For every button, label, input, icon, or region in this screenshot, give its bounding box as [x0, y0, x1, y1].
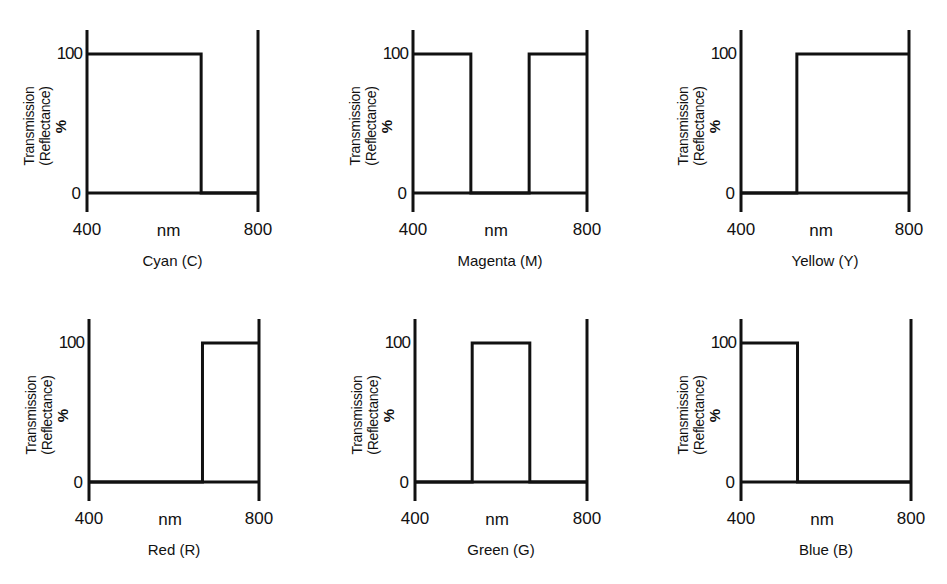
y-axis-label-line2: (Reflectance) — [365, 363, 381, 467]
x-tick-800: 800 — [573, 220, 601, 240]
x-axis-unit: nm — [484, 221, 508, 241]
y-tick-0: 0 — [726, 184, 734, 204]
x-axis-unit: nm — [157, 221, 181, 241]
x-tick-400: 400 — [727, 220, 755, 240]
y-axis-label-line2: (Reflectance) — [37, 74, 53, 178]
x-axis-unit: nm — [809, 221, 833, 241]
chart-panel-cyan: 1000400nm800Cyan (C)Transmission(Reflect… — [0, 0, 300, 260]
chart-panel-blue: 1000400nm800Blue (B)Transmission(Reflect… — [654, 289, 947, 549]
y-axis-label-line1: Transmission — [23, 363, 39, 467]
transmission-curve — [741, 343, 911, 482]
x-tick-800: 800 — [897, 509, 925, 529]
y-axis-label: Transmission(Reflectance) — [349, 363, 383, 467]
y-axis-unit: % — [380, 409, 397, 422]
transmission-curve — [87, 54, 258, 193]
y-tick-0: 0 — [74, 473, 82, 493]
x-tick-800: 800 — [244, 220, 272, 240]
y-axis-unit: % — [706, 409, 723, 422]
x-axis-unit: nm — [810, 510, 834, 530]
y-tick-0: 0 — [726, 473, 734, 493]
x-tick-800: 800 — [895, 220, 923, 240]
transmission-curve — [741, 54, 909, 193]
panel-caption: Magenta (M) — [457, 252, 542, 269]
y-tick-0: 0 — [400, 473, 408, 493]
y-axis-label: Transmission(Reflectance) — [347, 74, 381, 178]
chart-panel-magenta: 1000400nm800Magenta (M)Transmission(Refl… — [326, 0, 626, 260]
y-axis-unit: % — [54, 409, 71, 422]
y-axis-label-line2: (Reflectance) — [363, 74, 379, 178]
chart-panel-green: 1000400nm800Green (G)Transmission(Reflec… — [328, 289, 628, 549]
y-tick-0: 0 — [398, 184, 406, 204]
transmission-curve — [89, 343, 259, 482]
transmission-curve — [415, 343, 587, 482]
chart-panel-red: 1000400nm800Red (R)Transmission(Reflecta… — [2, 289, 302, 549]
y-axis-label-line2: (Reflectance) — [691, 74, 707, 178]
y-tick-100: 100 — [59, 333, 84, 353]
y-axis-label-line1: Transmission — [349, 363, 365, 467]
panel-caption: Green (G) — [467, 541, 535, 558]
panel-caption: Blue (B) — [799, 541, 853, 558]
y-tick-100: 100 — [385, 333, 410, 353]
x-tick-400: 400 — [399, 220, 427, 240]
y-tick-100: 100 — [383, 44, 408, 64]
panel-caption: Cyan (C) — [142, 252, 202, 269]
x-axis-unit: nm — [158, 510, 182, 530]
y-axis-label-line2: (Reflectance) — [691, 363, 707, 467]
y-axis-label: Transmission(Reflectance) — [21, 74, 55, 178]
y-axis-label-line1: Transmission — [675, 74, 691, 178]
y-axis-unit: % — [378, 120, 395, 133]
panel-caption: Yellow (Y) — [792, 252, 859, 269]
x-tick-400: 400 — [73, 220, 101, 240]
x-tick-400: 400 — [75, 509, 103, 529]
x-tick-800: 800 — [245, 509, 273, 529]
panel-caption: Red (R) — [148, 541, 201, 558]
y-tick-100: 100 — [57, 44, 82, 64]
x-axis-unit: nm — [485, 510, 509, 530]
y-axis-label: Transmission(Reflectance) — [675, 74, 709, 178]
y-axis-label-line1: Transmission — [675, 363, 691, 467]
chart-panel-yellow: 1000400nm800Yellow (Y)Transmission(Refle… — [654, 0, 947, 260]
y-tick-100: 100 — [711, 44, 736, 64]
y-axis-label-line1: Transmission — [21, 74, 37, 178]
x-tick-400: 400 — [727, 509, 755, 529]
y-axis-unit: % — [706, 120, 723, 133]
transmission-curve — [413, 54, 587, 193]
y-axis-label-line1: Transmission — [347, 74, 363, 178]
y-tick-0: 0 — [72, 184, 80, 204]
y-axis-label: Transmission(Reflectance) — [675, 363, 709, 467]
x-tick-400: 400 — [401, 509, 429, 529]
y-axis-label-line2: (Reflectance) — [39, 363, 55, 467]
y-axis-unit: % — [52, 120, 69, 133]
y-tick-100: 100 — [711, 333, 736, 353]
x-tick-800: 800 — [573, 509, 601, 529]
y-axis-label: Transmission(Reflectance) — [23, 363, 57, 467]
